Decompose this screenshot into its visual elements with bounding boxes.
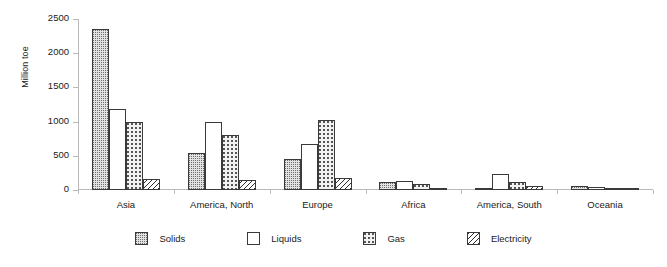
bar-electricity[interactable] <box>143 179 160 190</box>
x-axis-category-label: America, North <box>190 199 253 210</box>
bar-liquids[interactable] <box>492 174 509 190</box>
bar-solids[interactable] <box>92 29 109 190</box>
bar-electricity[interactable] <box>430 188 447 190</box>
bar-liquids[interactable] <box>205 122 222 190</box>
bar-group-bars <box>78 19 174 190</box>
bar-solids[interactable] <box>188 153 205 190</box>
legend-swatch-icon <box>363 232 376 245</box>
x-axis-category-label: Africa <box>401 199 425 210</box>
legend-item-electricity[interactable]: Electricity <box>467 232 532 245</box>
bar-electricity[interactable] <box>526 186 543 190</box>
bar-liquids[interactable] <box>396 181 413 190</box>
x-axis-tick <box>653 190 654 194</box>
bar-solids[interactable] <box>379 182 396 190</box>
bar-liquids[interactable] <box>588 187 605 190</box>
bar-gas[interactable] <box>126 122 143 190</box>
legend-label: Electricity <box>491 233 532 244</box>
bar-gas[interactable] <box>413 184 430 190</box>
y-axis-tick-label: 1000 <box>48 115 69 126</box>
bar-group-bars <box>174 19 270 190</box>
legend-swatch-icon <box>467 232 480 245</box>
bar-group: America, North <box>174 19 270 190</box>
legend-item-gas[interactable]: Gas <box>363 232 404 245</box>
bar-gas[interactable] <box>222 135 239 190</box>
x-axis-category-label: Oceania <box>587 199 622 210</box>
legend-label: Liquids <box>271 233 301 244</box>
x-axis-tick <box>78 190 79 194</box>
bar-group-bars <box>270 19 366 190</box>
y-axis-tick-label: 500 <box>53 149 69 160</box>
x-axis-category-label: Asia <box>117 199 135 210</box>
bar-liquids[interactable] <box>109 109 126 190</box>
bar-gas[interactable] <box>605 188 622 190</box>
bar-group-bars <box>557 19 653 190</box>
bar-solids[interactable] <box>571 186 588 190</box>
x-axis-tick <box>557 190 558 194</box>
bar-solids[interactable] <box>475 188 492 190</box>
x-axis-category-label: America, South <box>477 199 542 210</box>
legend-label: Gas <box>387 233 404 244</box>
chart-legend: SolidsLiquidsGasElectricity <box>0 232 667 245</box>
legend-label: Solids <box>159 233 185 244</box>
y-axis-tick-label: 1500 <box>48 80 69 91</box>
bar-group: America, South <box>461 19 557 190</box>
y-axis-tick-label: 2000 <box>48 46 69 57</box>
x-axis-tick <box>270 190 271 194</box>
bar-gas[interactable] <box>318 120 335 190</box>
legend-item-liquids[interactable]: Liquids <box>247 232 301 245</box>
bar-group: Africa <box>366 19 462 190</box>
x-axis-tick <box>366 190 367 194</box>
legend-swatch-icon <box>135 232 148 245</box>
x-axis-tick <box>461 190 462 194</box>
x-axis-tick <box>174 190 175 194</box>
chart-figure: Million toe 05001000150020002500 AsiaAme… <box>0 0 667 267</box>
bar-gas[interactable] <box>509 182 526 190</box>
legend-item-solids[interactable]: Solids <box>135 232 185 245</box>
bar-electricity[interactable] <box>335 178 352 190</box>
x-axis-category-label: Europe <box>302 199 333 210</box>
bar-electricity[interactable] <box>622 188 639 190</box>
bar-solids[interactable] <box>284 159 301 190</box>
bar-electricity[interactable] <box>239 180 256 190</box>
bar-group-bars <box>461 19 557 190</box>
bar-liquids[interactable] <box>301 144 318 191</box>
plot-area: 05001000150020002500 AsiaAmerica, NorthE… <box>78 19 653 190</box>
bar-group: Asia <box>78 19 174 190</box>
bar-group: Europe <box>270 19 366 190</box>
y-axis-tick-label: 2500 <box>48 12 69 23</box>
y-axis-tick-label: 0 <box>64 183 69 194</box>
bar-group-bars <box>366 19 462 190</box>
bar-group: Oceania <box>557 19 653 190</box>
y-axis-title: Million toe <box>20 12 30 122</box>
legend-swatch-icon <box>247 232 260 245</box>
